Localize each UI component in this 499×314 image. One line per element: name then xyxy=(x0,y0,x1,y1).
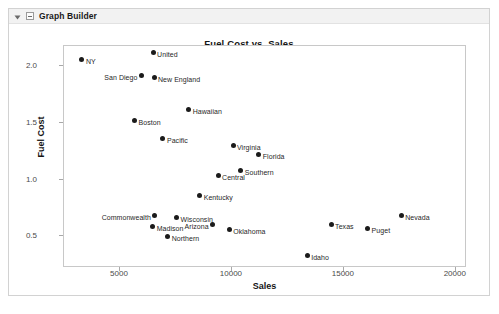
y-axis-label: Fuel Cost xyxy=(36,97,46,177)
panel-title: Graph Builder xyxy=(39,11,97,21)
scatter-point[interactable] xyxy=(329,222,334,227)
point-label: United xyxy=(157,51,178,58)
point-label: New England xyxy=(158,76,200,83)
scatter-point[interactable] xyxy=(231,143,236,148)
plot-frame[interactable]: NYUnitedSan DiegoNew EnglandHawaiianBost… xyxy=(63,45,466,267)
point-label: Texas xyxy=(335,223,354,230)
scatter-point[interactable] xyxy=(152,75,157,80)
scatter-point[interactable] xyxy=(174,215,179,220)
scatter-point[interactable] xyxy=(186,107,191,112)
point-label: Boston xyxy=(139,119,161,126)
y-tick-label: 0.5 xyxy=(7,231,37,240)
scatter-point[interactable] xyxy=(305,253,310,258)
point-label: NY xyxy=(86,58,96,65)
point-label: Wisconsin xyxy=(181,215,213,222)
x-tick-mark xyxy=(343,267,344,271)
point-label: Southern xyxy=(245,169,274,176)
point-label: Hawaiian xyxy=(193,107,222,114)
scatter-point[interactable] xyxy=(150,224,155,229)
x-tick-mark xyxy=(119,267,120,271)
point-label: Nevada xyxy=(405,214,429,221)
triangle-down-icon[interactable] xyxy=(14,12,23,21)
point-label: Oklahoma xyxy=(233,227,265,234)
scatter-point[interactable] xyxy=(210,222,215,227)
point-label: Idaho xyxy=(311,254,329,261)
scatter-point[interactable] xyxy=(139,73,144,78)
graph-builder-panel: Graph Builder Fuel Cost vs. Sales Fuel C… xyxy=(8,8,490,296)
y-tick-label: 2.0 xyxy=(7,61,37,70)
scatter-point[interactable] xyxy=(160,136,165,141)
point-label: Kentucky xyxy=(204,194,233,201)
scatter-point[interactable] xyxy=(227,227,232,232)
x-axis-label: Sales xyxy=(63,281,466,291)
scatter-point[interactable] xyxy=(151,50,156,55)
minus-box-icon[interactable] xyxy=(26,12,34,20)
point-label: Puget xyxy=(372,226,391,233)
scatter-point[interactable] xyxy=(256,152,261,157)
point-label: Northern xyxy=(172,234,200,241)
x-tick-mark xyxy=(455,267,456,271)
point-label: Arizona xyxy=(185,223,209,230)
scatter-point[interactable] xyxy=(79,57,84,62)
scatter-point[interactable] xyxy=(132,118,137,123)
panel-title-bar: Graph Builder xyxy=(9,9,489,24)
point-label: Commonwealth xyxy=(102,214,151,221)
scatter-point[interactable] xyxy=(165,234,170,239)
scatter-point[interactable] xyxy=(399,213,404,218)
scatter-point[interactable] xyxy=(365,226,370,231)
y-tick-label: 1.5 xyxy=(7,118,37,127)
y-tick-label: 1.0 xyxy=(7,174,37,183)
point-label: Central xyxy=(222,173,245,180)
point-label: Virginia xyxy=(237,144,261,151)
point-label: Florida xyxy=(263,153,285,160)
scatter-point[interactable] xyxy=(197,193,202,198)
point-label: San Diego xyxy=(104,73,137,80)
x-tick-mark xyxy=(231,267,232,271)
chart-area: Fuel Cost vs. Sales Fuel Cost Sales 0.51… xyxy=(9,24,489,295)
point-label: Pacific xyxy=(167,137,188,144)
point-label: Madison xyxy=(157,224,184,231)
scatter-point[interactable] xyxy=(152,213,157,218)
scatter-point[interactable] xyxy=(216,173,221,178)
